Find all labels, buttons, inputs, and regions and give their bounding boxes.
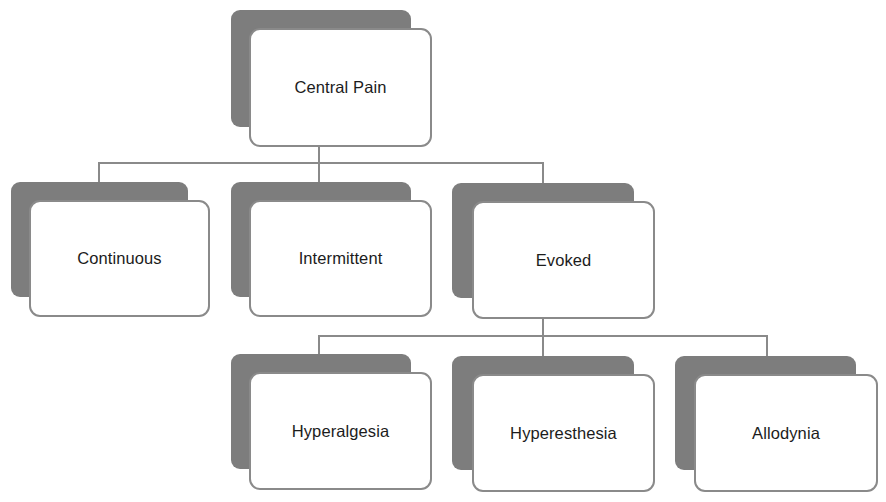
node-box: Intermittent [249,200,432,317]
node-label-intermittent: Intermittent [299,249,383,268]
connector-to-continuous [98,162,100,182]
connector-to-intermittent [318,162,320,182]
connector-to-hyperesthesia [542,335,544,356]
connector-level1-bus [98,162,544,164]
node-box: Hyperalgesia [249,372,432,490]
node-box: Hyperesthesia [472,374,655,492]
node-box: Continuous [29,200,210,317]
node-label-hyperalgesia: Hyperalgesia [292,422,390,441]
node-box: Central Pain [249,28,432,147]
node-label-evoked: Evoked [536,251,592,270]
connector-to-allodynia [766,335,768,356]
diagram-canvas: Central Pain Continuous Intermittent Evo… [0,0,886,502]
connector-to-evoked [542,162,544,183]
connector-to-hyperalgesia [318,335,320,355]
node-label-hyperesthesia: Hyperesthesia [510,424,617,443]
node-label-continuous: Continuous [77,249,161,268]
node-label-allodynia: Allodynia [752,424,820,443]
node-box: Evoked [472,201,655,319]
node-label-central-pain: Central Pain [295,78,387,97]
node-box: Allodynia [694,374,878,492]
